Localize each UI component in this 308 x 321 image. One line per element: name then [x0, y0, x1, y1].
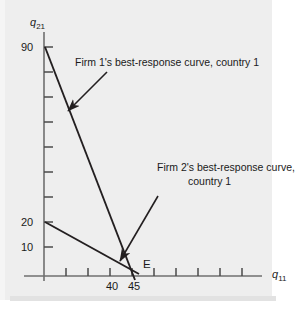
- firm2-annotation-line1: Firm 2's best-response curve,: [157, 161, 295, 173]
- figure-container: q21 q11 90 20 10 40 45 E Firm 1's best-r…: [0, 0, 308, 321]
- firm1-annotation-text: Firm 1's best-response curve, country 1: [75, 56, 259, 68]
- firm2-best-response-curve: [45, 222, 139, 274]
- y-tick-label-20: 20: [21, 216, 33, 229]
- y-tick-label-10: 10: [21, 241, 33, 254]
- x-axis-label: q11: [272, 268, 286, 284]
- x-tick-label-40: 40: [106, 280, 118, 293]
- firm2-annotation-line2: country 1: [188, 175, 231, 187]
- x-axis-label-sub: 11: [278, 274, 286, 283]
- equilibrium-point-label: E: [143, 258, 151, 272]
- y-tick-marks: [44, 47, 53, 247]
- y-axis-label-sub: 21: [36, 22, 45, 31]
- x-tick-label-45: 45: [128, 280, 140, 293]
- y-axis-label: q21: [30, 16, 45, 32]
- y-tick-label-90: 90: [21, 41, 33, 54]
- firm1-best-response-curve: [45, 47, 135, 280]
- x-tick-marks: [66, 268, 242, 276]
- firm1-annotation-arrow: [68, 72, 107, 111]
- firm2-annotation-arrow: [120, 196, 158, 261]
